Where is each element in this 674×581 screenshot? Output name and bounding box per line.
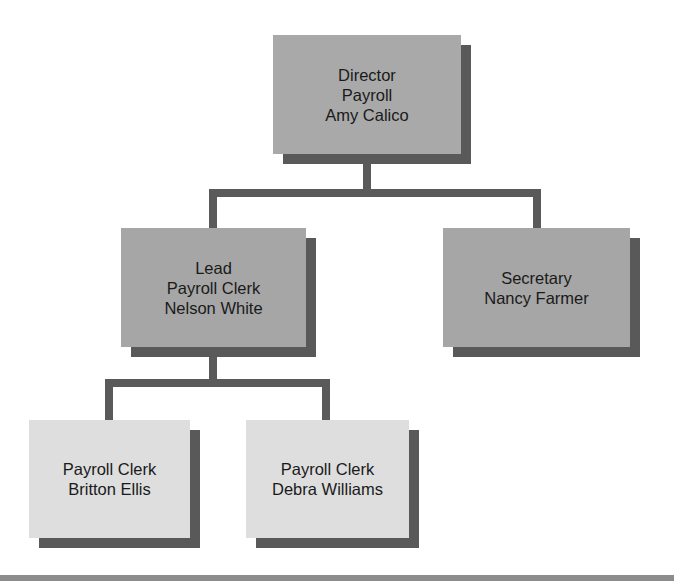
node-person: Nelson White (164, 298, 262, 318)
node-person: Amy Calico (325, 105, 408, 125)
node-title: Secretary (501, 268, 572, 288)
node-title: Payroll Clerk (281, 459, 375, 479)
node-face: Payroll Clerk Debra Williams (246, 420, 409, 538)
node-face: Payroll Clerk Britton Ellis (29, 420, 190, 538)
node-lead-payroll-clerk: Lead Payroll Clerk Nelson White (121, 228, 306, 347)
node-title: Lead (195, 258, 232, 278)
node-payroll-clerk-williams: Payroll Clerk Debra Williams (246, 420, 409, 538)
org-chart: Director Payroll Amy Calico Lead Payroll… (0, 0, 674, 581)
node-person: Debra Williams (272, 479, 383, 499)
node-title: Director (338, 65, 396, 85)
node-role: Payroll Clerk (167, 278, 261, 298)
node-director: Director Payroll Amy Calico (273, 35, 461, 154)
connector-to-williams (322, 379, 330, 421)
node-face: Director Payroll Amy Calico (273, 35, 461, 154)
node-secretary: Secretary Nancy Farmer (443, 228, 630, 347)
connector-level2-bar (209, 189, 541, 197)
node-person: Nancy Farmer (484, 288, 589, 308)
connector-to-lead (209, 189, 217, 229)
connector-to-secretary (533, 189, 541, 229)
node-person: Britton Ellis (68, 479, 151, 499)
node-payroll-clerk-ellis: Payroll Clerk Britton Ellis (29, 420, 190, 538)
connector-to-ellis (105, 379, 113, 421)
node-face: Secretary Nancy Farmer (443, 228, 630, 347)
node-department: Payroll (342, 85, 392, 105)
connector-level3-bar (105, 379, 330, 387)
node-title: Payroll Clerk (63, 459, 157, 479)
bottom-divider (0, 575, 674, 581)
node-face: Lead Payroll Clerk Nelson White (121, 228, 306, 347)
